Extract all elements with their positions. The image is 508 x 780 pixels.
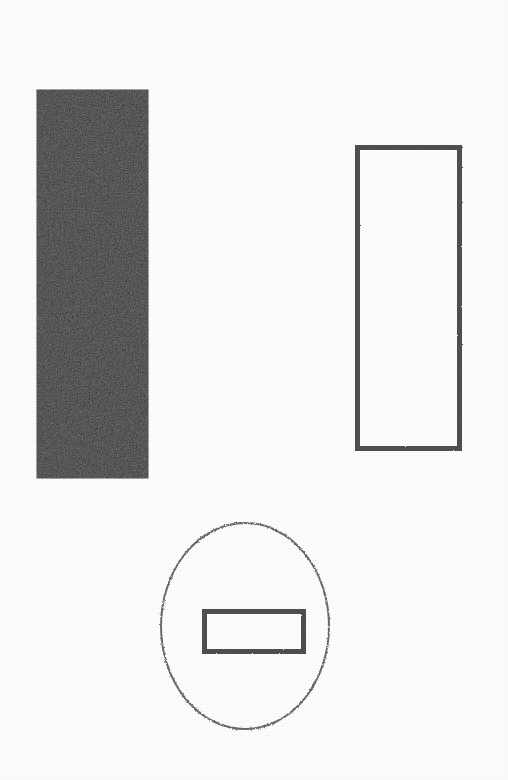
candlestick-figure: Candlestick chart illustration Filled (b… (0, 0, 508, 780)
candle-bullish-hollow (358, 105, 460, 506)
candle-body-filled (37, 90, 148, 478)
figure-canvas (0, 0, 508, 780)
candle-body-hollow (205, 612, 304, 652)
candle-body-hollow (358, 148, 460, 449)
candle-bearish-filled (37, 40, 148, 518)
